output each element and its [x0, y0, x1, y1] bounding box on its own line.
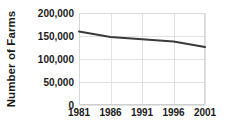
gridline-horizontal: [79, 105, 205, 106]
x-axis-tick-label: 1991: [131, 107, 153, 118]
x-axis-tick-label: 1996: [162, 107, 184, 118]
series-line-number-of-farms: [79, 31, 205, 47]
y-axis-title-text: Number of Farms: [5, 11, 17, 108]
x-axis-tick-label: 1981: [68, 107, 90, 118]
data-series-line: [79, 13, 205, 105]
y-axis-title: Number of Farms: [0, 0, 22, 118]
y-axis-tick-label: 100,000: [38, 54, 74, 65]
x-axis-tick-labels: 19811986199119962001: [79, 107, 205, 125]
y-axis-tick-labels: 050,000100,000150,000200,000: [22, 13, 77, 105]
y-axis-tick-label: 150,000: [38, 31, 74, 42]
x-axis-tick-label: 2001: [194, 107, 216, 118]
x-axis-tick-label: 1986: [99, 107, 121, 118]
line-chart-figure: Number of Farms 050,000100,000150,000200…: [0, 0, 238, 138]
y-axis-tick-label: 200,000: [38, 8, 74, 19]
plot-area: [79, 13, 205, 105]
y-axis-tick-label: 50,000: [43, 77, 74, 88]
gridline-vertical: [205, 13, 206, 105]
